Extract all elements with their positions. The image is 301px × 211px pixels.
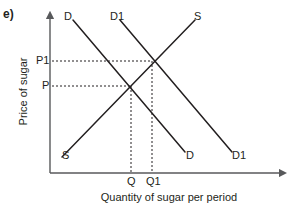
demand-shifted-curve-label-top: D1 bbox=[110, 11, 124, 22]
figure-container: e) Price of sugar Quantity of sugar per … bbox=[0, 0, 301, 211]
price-tick-p1: P1 bbox=[36, 55, 49, 66]
demand-curve-label-top: D bbox=[64, 11, 72, 22]
demand-shifted-curve-label-bottom: D1 bbox=[232, 150, 246, 161]
price-tick-p: P bbox=[42, 80, 49, 91]
quantity-tick-q: Q bbox=[127, 176, 136, 187]
supply-curve-label-bottom: S bbox=[62, 150, 69, 161]
y-axis-title: Price of sugar bbox=[18, 47, 29, 137]
quantity-tick-q1: Q1 bbox=[146, 176, 161, 187]
curves bbox=[62, 20, 232, 157]
axes bbox=[50, 15, 283, 173]
supply-curve bbox=[62, 20, 195, 157]
supply-curve-label-top: S bbox=[194, 11, 201, 22]
x-axis-title: Quantity of sugar per period bbox=[50, 192, 288, 203]
demand-curve-label-bottom: D bbox=[186, 150, 194, 161]
